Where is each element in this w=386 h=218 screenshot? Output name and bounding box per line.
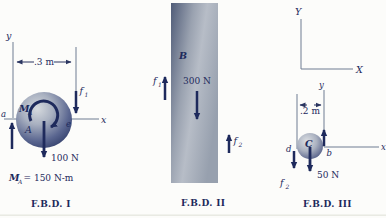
figure-canvas: y x .3 m M A A a e f 1 100 N M A = 150 N… [0,0,386,218]
fbd-figure: y x .3 m M A A a e f 1 100 N M A = 150 N… [0,0,386,218]
fbd1-equation-subscript: A [17,178,23,185]
fbd1-body-label: A [24,124,32,135]
fbd1-moment-subscript: A [27,109,33,116]
fbd1-f1-subscript: 1 [85,91,89,98]
fbd2-panel: B 300 N f 1 f 2 F.B.D. II [152,3,243,208]
fbd1-equation-value: = 150 N-m [24,173,74,183]
fbd2-f2-subscript: 2 [238,141,243,148]
fbd3-point-d-label: d [286,144,292,154]
fbd1-y-axis-label: y [5,30,12,41]
fbd1-point-a-label: a [1,109,6,119]
fbd2-applied-force-label: 300 N [183,76,211,86]
fbd1-panel: y x .3 m M A A a e f 1 100 N M A = 150 N… [1,30,107,209]
fbd3-dimension-label: .2 m [300,106,320,116]
fbd2-caption: F.B.D. II [181,198,225,208]
fbd3-point-b-label: b [327,148,332,158]
fbd1-point-e-label: e [66,119,71,129]
fbd3-f2-symbol: f [279,177,285,188]
fbd3-global-x-label: X [355,64,364,75]
fbd1-weight-label: 100 N [51,153,79,163]
fbd3-panel: Y X y .2 m x C b d f 2 50 N F.B.D. III [279,6,386,209]
page-scan-artifact [0,215,386,216]
fbd1-dimension-label: .3 m [34,57,54,67]
fbd3-weight-label: 50 N [317,170,339,180]
fbd3-x-axis-label: x [381,142,386,152]
fbd3-f2-subscript: 2 [285,183,290,190]
fbd2-body-label: B [178,50,187,61]
fbd3-caption: F.B.D. III [303,199,352,209]
fbd1-caption: F.B.D. I [31,199,71,209]
fbd1-x-axis-label: x [101,114,107,125]
fbd2-f1-subscript: 1 [158,81,162,88]
fbd3-global-y-label: Y [295,6,303,17]
fbd2-body-plate [171,3,218,183]
fbd3-y-axis-label: y [318,80,324,90]
